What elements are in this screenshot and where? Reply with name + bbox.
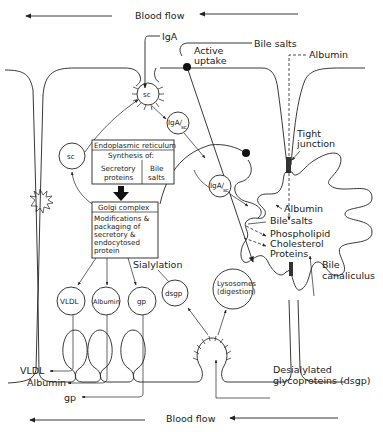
iga-sc-sub-label: sc — [181, 124, 187, 130]
lysosome: Lysosomes (digestion) — [213, 269, 256, 309]
er-col1-line1: Secretory — [101, 164, 136, 173]
transporter-dot — [242, 149, 250, 157]
albumin-vesicle: Albumin — [92, 287, 120, 315]
sc-left-label: sc — [67, 152, 75, 161]
dsgp-vesicle: dsgp — [162, 280, 188, 306]
dsgp-label: dsgp — [165, 289, 183, 298]
golgi-title: Golgi complex — [98, 203, 150, 212]
er-col2-line1: Bile — [150, 164, 164, 173]
er-col1-line2: proteins — [104, 173, 134, 182]
iga-label: IgA — [162, 31, 178, 42]
proteins-label: Proteins — [270, 248, 308, 259]
albumin-top-label: Albumin — [309, 49, 348, 60]
iga-sc-sub-label: sc — [223, 187, 229, 193]
blood-flow-label: Blood flow — [135, 10, 185, 21]
vldl-label: VLDL — [60, 297, 78, 306]
active-uptake-label-2: uptake — [194, 55, 227, 66]
albumin-vesicle-label: Albumin — [93, 298, 120, 306]
blood-flow-bottom: Blood flow — [30, 413, 338, 424]
golgi-line: protein — [94, 246, 120, 255]
tight-junction-lower — [289, 262, 293, 276]
albumin-out-label: Albumin — [27, 377, 66, 388]
gp-label: gp — [137, 297, 147, 306]
bile-canaliculus-label-1: Bile — [322, 259, 340, 270]
gp-out-label: gp — [64, 392, 76, 403]
gp-vesicle: gp — [128, 287, 156, 315]
bile-canaliculus: Albumin Bile salts Phospholipid Choleste… — [241, 153, 375, 296]
er-to-golgi-arrow — [113, 186, 129, 201]
bile-canaliculus-label-2: canaliculus — [322, 270, 375, 281]
iga-input: IgA — [145, 31, 178, 88]
er-subtitle: Synthesis of: — [108, 151, 154, 160]
golgi-box: Golgi complex Modifications & packaging … — [92, 202, 158, 258]
albumin-paracellular: Albumin Tight junction — [286, 49, 348, 220]
bile-salts-canal-label: Bile salts — [270, 215, 313, 226]
er-title: Endoplasmic reticulum — [94, 141, 176, 150]
er-box: Endoplasmic reticulum Synthesis of: Secr… — [92, 140, 176, 184]
lysosomes-label-2: (digestion) — [217, 287, 256, 296]
sc-endocytic-pit: sc — [132, 68, 164, 110]
hepatocyte-diagram: Blood flow sc — [0, 0, 383, 432]
tight-junction-label-2: junction — [296, 138, 335, 149]
bile-salts-top-label: Bile salts — [254, 38, 297, 49]
vldl-vesicle: VLDL — [57, 287, 85, 315]
er-col2-line2: salts — [148, 173, 165, 182]
sialylation-label: Sialylation — [133, 259, 182, 270]
dsgp-desc-label-1: Desialylated — [273, 364, 332, 375]
blood-flow-top: Blood flow — [26, 10, 298, 21]
tight-junction — [286, 157, 291, 173]
blood-flow-label: Blood flow — [166, 413, 216, 424]
vldl-out-label: VLDL — [20, 365, 45, 376]
sc-top-label: sc — [143, 90, 151, 99]
dsgp-desc-label-2: glycoproteins (dsgp) — [273, 375, 371, 386]
albumin-canal-label: Albumin — [284, 203, 323, 214]
